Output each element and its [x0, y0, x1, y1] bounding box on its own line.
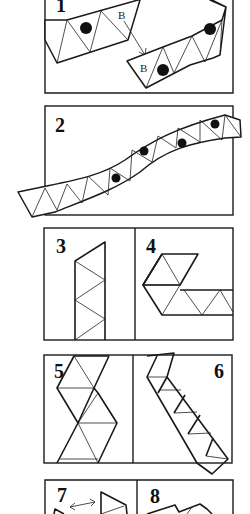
step-7-8-panel: 7 8 [45, 480, 233, 514]
step-3-strip [75, 242, 105, 340]
step-5-6-frame [44, 355, 232, 463]
step-1-number: 1 [56, 0, 66, 16]
step-7-double-arrow [70, 499, 95, 510]
step-7-number: 7 [57, 484, 67, 506]
step-1-label-b-top: B [118, 9, 125, 21]
step-2-dot-4 [211, 120, 220, 129]
step-4-number: 4 [146, 235, 156, 257]
step-8-number: 8 [150, 485, 160, 507]
step-2-dot-1 [112, 174, 121, 183]
step-1-dot-upper [204, 23, 216, 35]
step-4-strip [143, 254, 233, 315]
step-5-6-panel: 5 6 [44, 353, 232, 474]
step-6-number: 6 [214, 360, 224, 382]
step-3-4-frame [44, 228, 233, 340]
step-5-strip [57, 356, 117, 463]
step-2-panel: 2 [18, 106, 241, 217]
step-2-dot-2 [140, 147, 149, 156]
step-1-label-b-bottom: B [140, 62, 147, 74]
folding-diagram: 1 B B [0, 0, 250, 514]
step-3-4-panel: 3 4 [44, 228, 233, 340]
step-1-panel: 1 B B [45, 0, 233, 93]
step-2-dot-3 [178, 139, 187, 148]
step-1-dot-left [80, 22, 92, 34]
step-1-dot-lower [157, 64, 169, 76]
step-1-right-strip: B [127, 0, 226, 88]
step-2-strip [18, 115, 241, 217]
step-2-number: 2 [55, 114, 65, 136]
step-3-number: 3 [56, 235, 66, 257]
